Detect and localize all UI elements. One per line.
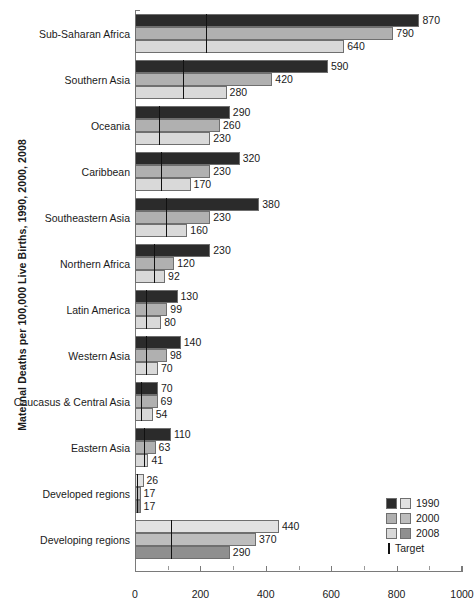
legend-swatch-alternate bbox=[400, 498, 411, 509]
bar-2000 bbox=[135, 119, 220, 132]
bar-value-label: 63 bbox=[159, 442, 171, 453]
bar-value-label: 380 bbox=[262, 199, 280, 210]
x-axis-tick bbox=[266, 566, 267, 572]
category-label: Sub-Saharan Africa bbox=[39, 28, 130, 40]
bar-2000 bbox=[135, 73, 272, 86]
legend-entry-2000: 2000 bbox=[386, 512, 468, 525]
bar-group: Southeastern Asia380230160 bbox=[135, 198, 462, 237]
legend-entry-2008: 2008 bbox=[386, 527, 468, 540]
target-marker bbox=[144, 428, 145, 467]
x-axis-tick-label: 200 bbox=[192, 588, 210, 600]
bar-value-label: 230 bbox=[213, 166, 231, 177]
x-axis-minor-tick bbox=[429, 566, 430, 570]
legend-swatch-primary bbox=[386, 498, 397, 509]
legend-label: 2008 bbox=[416, 527, 439, 540]
bar-1990 bbox=[135, 336, 181, 349]
bar-value-label: 230 bbox=[213, 133, 231, 144]
bar-1990 bbox=[135, 474, 144, 487]
bar-value-label: 320 bbox=[243, 153, 261, 164]
category-label: Oceania bbox=[91, 120, 130, 132]
bar-2008 bbox=[135, 224, 187, 237]
target-marker bbox=[137, 474, 138, 513]
x-axis-tick-label: 600 bbox=[322, 588, 340, 600]
x-axis-minor-tick bbox=[233, 566, 234, 570]
category-label: Southeastern Asia bbox=[45, 212, 130, 224]
legend-entry-1990: 1990 bbox=[386, 497, 468, 510]
bar-1990 bbox=[135, 244, 210, 257]
bar-2008 bbox=[135, 408, 153, 421]
bar-2008 bbox=[135, 132, 210, 145]
bar-value-label: 17 bbox=[144, 488, 156, 499]
bar-value-label: 80 bbox=[164, 317, 176, 328]
bar-group: Oceania290260230 bbox=[135, 106, 462, 145]
target-marker bbox=[146, 336, 147, 375]
bar-1990 bbox=[135, 382, 158, 395]
bar-value-label: 290 bbox=[233, 547, 251, 558]
bar-value-label: 120 bbox=[177, 258, 195, 269]
bar-group: Caribbean320230170 bbox=[135, 152, 462, 191]
bar-value-label: 70 bbox=[161, 363, 173, 374]
bar-value-label: 130 bbox=[181, 291, 199, 302]
bar-2008 bbox=[135, 454, 148, 467]
bar-2000 bbox=[135, 395, 158, 408]
bar-group: Sub-Saharan Africa870790640 bbox=[135, 14, 462, 53]
legend-swatch-primary bbox=[386, 528, 397, 539]
bar-2000 bbox=[135, 303, 167, 316]
bar-value-label: 230 bbox=[213, 245, 231, 256]
target-tick-icon bbox=[388, 543, 390, 554]
bar-1990 bbox=[135, 428, 171, 441]
bar-group: Caucasus & Central Asia706954 bbox=[135, 382, 462, 421]
bar-value-label: 41 bbox=[151, 455, 163, 466]
bar-1990 bbox=[135, 106, 230, 119]
x-axis-tick-label: 400 bbox=[257, 588, 275, 600]
y-axis-title-text: Maternal Deaths per 100,000 Live Births,… bbox=[15, 0, 29, 570]
bar-value-label: 92 bbox=[168, 271, 180, 282]
x-axis-tick-label: 0 bbox=[132, 588, 138, 600]
bar-value-label: 54 bbox=[156, 409, 168, 420]
x-axis-tick bbox=[397, 566, 398, 572]
category-label: Caribbean bbox=[82, 166, 130, 178]
x-axis-minor-tick bbox=[168, 566, 169, 570]
bar-1990 bbox=[135, 60, 328, 73]
x-axis-line bbox=[135, 571, 462, 572]
bar-1990 bbox=[135, 198, 259, 211]
target-marker bbox=[159, 106, 160, 145]
bar-value-label: 590 bbox=[331, 61, 349, 72]
bar-2008 bbox=[135, 270, 165, 283]
target-marker bbox=[166, 198, 167, 237]
bar-value-label: 280 bbox=[230, 87, 248, 98]
category-label: Southern Asia bbox=[65, 74, 130, 86]
bar-group: Eastern Asia1106341 bbox=[135, 428, 462, 467]
bar-2000 bbox=[135, 441, 156, 454]
bar-value-label: 870 bbox=[422, 15, 440, 26]
target-marker bbox=[154, 244, 155, 283]
target-marker bbox=[206, 14, 207, 53]
legend-swatch-alternate bbox=[400, 528, 411, 539]
bar-2008 bbox=[135, 178, 191, 191]
category-label: Western Asia bbox=[68, 350, 130, 362]
bar-value-label: 99 bbox=[170, 304, 182, 315]
bar-value-label: 230 bbox=[213, 212, 231, 223]
bar-value-label: 790 bbox=[396, 28, 414, 39]
x-axis-tick bbox=[200, 566, 201, 572]
legend: 199020002008 Target bbox=[386, 497, 468, 557]
bar-2000 bbox=[135, 349, 167, 362]
bar-group: Southern Asia590420280 bbox=[135, 60, 462, 99]
bar-2000 bbox=[135, 211, 210, 224]
bar-value-label: 170 bbox=[194, 179, 212, 190]
bar-1990 bbox=[135, 14, 419, 27]
category-label: Eastern Asia bbox=[71, 442, 130, 454]
x-axis-tick bbox=[462, 566, 463, 572]
legend-swatch-alternate bbox=[400, 513, 411, 524]
bar-value-label: 160 bbox=[190, 225, 208, 236]
bar-value-label: 290 bbox=[233, 107, 251, 118]
bar-2000 bbox=[135, 533, 256, 546]
bar-group: Northern Africa23012092 bbox=[135, 244, 462, 283]
target-marker bbox=[183, 60, 184, 99]
bar-1990 bbox=[135, 520, 279, 533]
y-axis-top-cap bbox=[135, 10, 140, 11]
bar-value-label: 370 bbox=[259, 534, 277, 545]
bar-2000 bbox=[135, 27, 393, 40]
x-axis-tick bbox=[331, 566, 332, 572]
bar-group: Latin America1309980 bbox=[135, 290, 462, 329]
